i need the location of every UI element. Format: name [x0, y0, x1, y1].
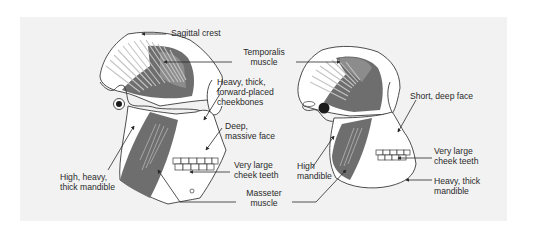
left-skull: [100, 32, 226, 204]
label-deep-massive-face: Deep, massive face: [225, 121, 275, 141]
label-right-cheek-teeth: Very large cheek teeth: [434, 146, 478, 166]
left-cheek-teeth: [173, 158, 218, 170]
label-cheekbones: Heavy, thick, forward-placed cheekbones: [217, 77, 274, 107]
label-high-mandible: High mandible: [297, 161, 332, 181]
label-sagittal-crest: Sagittal crest: [171, 28, 221, 38]
right-cheek-teeth: [376, 150, 410, 160]
label-short-deep-face: Short, deep face: [410, 91, 473, 101]
label-masseter-muscle: Masseter muscle: [236, 188, 292, 208]
label-right-mandible: Heavy, thick mandible: [434, 176, 480, 196]
label-left-mandible: High, heavy, thick mandible: [60, 172, 115, 192]
label-temporalis-muscle: Temporalis muscle: [236, 47, 292, 67]
label-left-cheek-teeth: Very large cheek teeth: [234, 160, 278, 180]
